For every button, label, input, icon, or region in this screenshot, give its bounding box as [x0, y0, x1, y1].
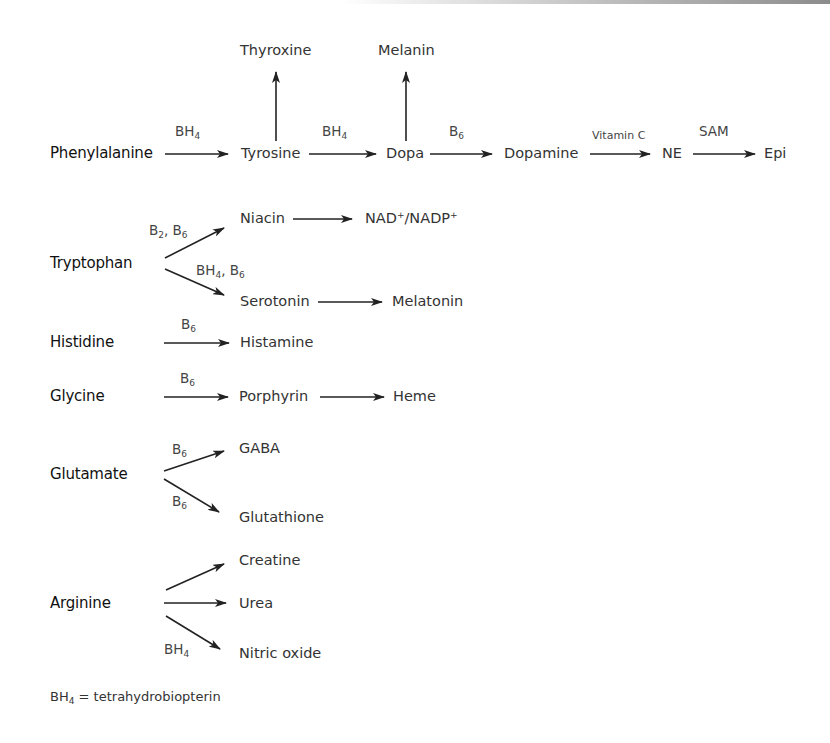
node-phenylalanine: Phenylalanine [50, 146, 153, 161]
cofactor-b2-b6: B2, B6 [149, 224, 188, 238]
cofactor-b6-dopa: B6 [449, 125, 464, 139]
cofactor-b6-gaba: B6 [172, 443, 187, 457]
node-tyrosine: Tyrosine [241, 146, 300, 161]
node-glutamate: Glutamate [50, 467, 128, 482]
node-glutathione: Glutathione [239, 510, 324, 525]
cofactor-bh4-arginine: BH4 [164, 643, 189, 657]
node-melatonin: Melatonin [392, 294, 463, 309]
node-arginine: Arginine [50, 596, 111, 611]
node-heme: Heme [393, 389, 436, 404]
arrow-arg-creatine [166, 564, 224, 590]
node-urea: Urea [239, 596, 273, 611]
node-gaba: GABA [239, 441, 280, 456]
cofactor-b6-histidine: B6 [181, 318, 196, 332]
node-epi: Epi [764, 146, 786, 161]
node-melanin: Melanin [378, 43, 435, 58]
cofactor-bh4-b6: BH4, B6 [196, 264, 245, 278]
arrows-layer [0, 0, 830, 743]
cofactor-sam: SAM [699, 125, 729, 139]
node-serotonin: Serotonin [240, 294, 310, 309]
node-creatine: Creatine [239, 553, 300, 568]
node-glycine: Glycine [50, 389, 104, 404]
node-nad-nadp: NAD+/NADP+ [365, 211, 458, 226]
node-niacin: Niacin [240, 211, 285, 226]
node-dopamine: Dopamine [504, 146, 578, 161]
cofactor-bh4-2: BH4 [322, 125, 347, 139]
node-dopa: Dopa [386, 146, 424, 161]
cofactor-vitamin-c: Vitamin C [592, 130, 645, 141]
node-thyroxine: Thyroxine [240, 43, 311, 58]
node-nitric-oxide: Nitric oxide [239, 646, 321, 661]
cofactor-bh4-1: BH4 [175, 125, 200, 139]
cofactor-b6-glutathione: B6 [172, 495, 187, 509]
node-histamine: Histamine [240, 335, 313, 350]
footnote: BH4 = tetrahydrobiopterin [50, 690, 221, 703]
node-histidine: Histidine [50, 335, 114, 350]
cofactor-b6-glycine: B6 [180, 372, 195, 386]
node-ne: NE [662, 146, 682, 161]
node-porphyrin: Porphyrin [239, 389, 308, 404]
node-tryptophan: Tryptophan [50, 256, 132, 271]
